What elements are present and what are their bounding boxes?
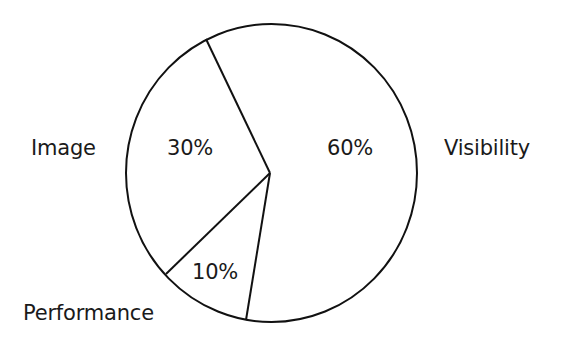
- category-label-visibility: Visibility: [444, 138, 530, 159]
- category-label-image: Image: [31, 138, 96, 159]
- category-label-performance: Performance: [23, 303, 154, 324]
- slice-value-performance: 10%: [192, 262, 238, 283]
- pie-outline: [126, 24, 417, 322]
- pie-chart: [0, 0, 566, 346]
- slice-value-image: 30%: [167, 138, 213, 159]
- slice-value-visibility: 60%: [327, 138, 373, 159]
